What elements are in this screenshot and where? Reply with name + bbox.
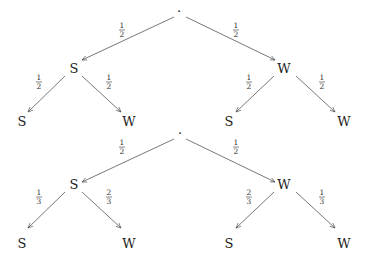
tree-1-prob-w-s: 1 2 (246, 73, 252, 91)
tree-1-leaf-w-w: W (337, 114, 351, 129)
tree-2-leaf-s-w: W (122, 236, 136, 251)
svg-text:1: 1 (37, 73, 42, 82)
tree-1: · 1 2 1 2 S W 1 2 1 2 (18, 4, 352, 129)
svg-text:2: 2 (247, 82, 252, 91)
tree-1-prob-root-w: 1 2 (233, 21, 239, 39)
svg-text:3: 3 (247, 197, 252, 206)
svg-text:2: 2 (120, 30, 125, 39)
tree-1-edge-w-s (236, 76, 274, 112)
tree-1-prob-w-w: 1 2 (319, 73, 325, 91)
svg-text:2: 2 (234, 30, 239, 39)
svg-text:1: 1 (247, 73, 252, 82)
tree-2-leaf-w-s: S (225, 236, 234, 251)
svg-text:1: 1 (37, 188, 42, 197)
svg-text:1: 1 (120, 138, 125, 147)
tree-2: · 1 2 1 2 S W 1 3 2 3 (18, 126, 352, 251)
tree-1-edge-s-s (28, 76, 65, 112)
tree-1-edge-root-s (82, 17, 174, 60)
svg-text:2: 2 (37, 82, 42, 91)
svg-text:3: 3 (37, 197, 42, 206)
svg-text:2: 2 (107, 188, 112, 197)
svg-text:3: 3 (320, 197, 325, 206)
svg-text:1: 1 (120, 21, 125, 30)
tree-2-node-s: S (70, 177, 79, 192)
tree-1-leaf-s-s: S (18, 114, 27, 129)
tree-2-prob-s-s: 1 3 (36, 188, 42, 206)
svg-text:1: 1 (107, 73, 112, 82)
tree-2-prob-w-w: 1 3 (319, 188, 325, 206)
tree-1-prob-root-s: 1 2 (119, 21, 125, 39)
svg-text:3: 3 (107, 197, 112, 206)
tree-2-node-w: W (277, 177, 291, 192)
tree-1-prob-s-s: 1 2 (36, 73, 42, 91)
tree-1-leaf-w-s: S (225, 114, 234, 129)
svg-text:1: 1 (320, 188, 325, 197)
tree-2-edge-root-w (186, 139, 275, 182)
tree-2-leaf-s-s: S (18, 236, 27, 251)
svg-text:1: 1 (234, 138, 239, 147)
tree-2-edge-s-w (82, 192, 121, 228)
tree-1-leaf-s-w: W (122, 114, 136, 129)
tree-2-root: · (178, 126, 182, 141)
tree-1-edge-w-w (296, 76, 335, 112)
tree-1-prob-s-w: 1 2 (106, 73, 112, 91)
tree-1-node-s: S (70, 61, 79, 76)
svg-text:2: 2 (247, 188, 252, 197)
svg-text:1: 1 (234, 21, 239, 30)
svg-text:2: 2 (234, 147, 239, 156)
tree-2-prob-s-w: 2 3 (106, 188, 112, 206)
tree-1-node-w: W (277, 61, 291, 76)
tree-1-root: · (177, 4, 181, 19)
probability-trees-diagram: · 1 2 1 2 S W 1 2 1 2 (0, 0, 369, 261)
svg-text:2: 2 (107, 82, 112, 91)
tree-2-prob-root-s: 1 2 (119, 138, 125, 156)
tree-1-edge-root-w (186, 17, 275, 60)
svg-text:2: 2 (320, 82, 325, 91)
tree-2-prob-w-s: 2 3 (246, 188, 252, 206)
tree-2-leaf-w-w: W (337, 236, 351, 251)
tree-2-edge-s-s (28, 192, 65, 228)
tree-2-edge-w-w (296, 192, 335, 228)
tree-2-prob-root-w: 1 2 (233, 138, 239, 156)
tree-2-edge-w-s (236, 192, 274, 228)
svg-text:1: 1 (320, 73, 325, 82)
svg-text:2: 2 (120, 147, 125, 156)
tree-1-edge-s-w (82, 76, 121, 112)
tree-2-edge-root-s (82, 139, 174, 182)
